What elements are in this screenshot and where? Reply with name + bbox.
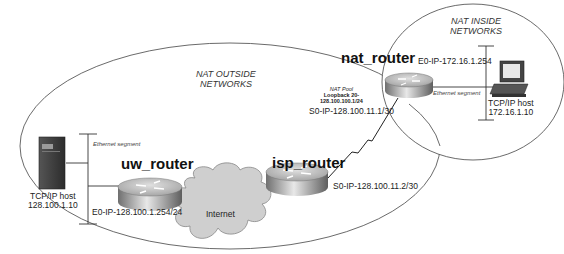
isp-s0-ip-label: S0-IP-128.100.11.2/30 [333, 182, 418, 191]
uw-router-label: uw_router [121, 156, 194, 173]
outside-zone-label-line2: NETWORKS [196, 80, 256, 90]
uw-e0-ip-label: E0-IP-128.100.1.254/24 [92, 208, 182, 217]
inside-zone-label-line2: NETWORKS [450, 27, 502, 37]
nat-e0-ip-label: E0-IP-172.16.1.254 [418, 57, 492, 66]
outside-host-label: TCP/IP host 128.100.1.10 [28, 192, 78, 211]
inside-segment-label: Ethernet segment [433, 90, 480, 97]
outside-host-ip: 128.100.1.10 [28, 201, 78, 210]
outside-segment-label: Ethernet segment [93, 141, 140, 148]
nat-s0-ip-label: S0-IP-128.100.11.1/30 [309, 107, 394, 116]
isp-router-label: isp_router [272, 155, 345, 172]
server-icon [39, 137, 65, 189]
nat-router-label: nat_router [341, 50, 415, 67]
outside-zone-label: NAT OUTSIDE NETWORKS [196, 70, 256, 90]
inside-host-ip: 172.16.1.10 [488, 108, 534, 117]
nat-pool-label: NAT Pool Loopback 20- 128.100.100.1/24 [320, 86, 363, 104]
network-diagram [0, 0, 564, 254]
nat-pool-line2: 128.100.100.1/24 [320, 98, 363, 104]
internet-cloud-icon [173, 163, 271, 238]
inside-zone-label: NAT INSIDE NETWORKS [450, 17, 502, 37]
nat-router-icon [385, 73, 433, 98]
internet-label: Internet [206, 210, 235, 219]
inside-host-label: TCP/IP host 172.16.1.10 [488, 99, 534, 118]
